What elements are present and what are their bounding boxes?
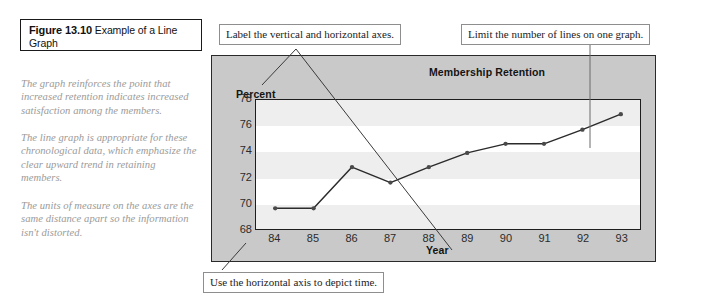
x-axis-tick-label: 91 bbox=[532, 232, 558, 244]
data-point bbox=[619, 112, 623, 116]
data-point bbox=[273, 206, 277, 210]
x-axis-tick-label: 90 bbox=[493, 232, 519, 244]
figure-number: Figure 13.10 bbox=[29, 24, 92, 36]
figure-note: The line graph is appropriate for these … bbox=[21, 131, 199, 184]
chart-panel: Membership Retention Percent Year 787674… bbox=[211, 55, 656, 262]
x-axis-tick-label: 93 bbox=[609, 232, 635, 244]
y-axis-tick-label: 78 bbox=[230, 92, 252, 104]
callout-label-axes: Label the vertical and horizontal axes. bbox=[219, 24, 401, 45]
x-axis-tick-label: 84 bbox=[261, 232, 287, 244]
y-axis-tick-label: 74 bbox=[230, 144, 252, 156]
x-axis-tick-label: 92 bbox=[570, 232, 596, 244]
x-axis-tick-label: 89 bbox=[454, 232, 480, 244]
y-axis-tick-label: 76 bbox=[230, 118, 252, 130]
y-axis-tick-label: 72 bbox=[230, 171, 252, 183]
figure-caption-box: Figure 13.10 Example of a Line Graph bbox=[20, 19, 202, 51]
x-axis-ticks: 84858687888990919293 bbox=[212, 232, 655, 248]
figure-note: The units of measure on the axes are the… bbox=[21, 199, 199, 239]
plot-area bbox=[255, 99, 641, 230]
data-point bbox=[350, 165, 354, 169]
data-point bbox=[465, 151, 469, 155]
data-point bbox=[427, 165, 431, 169]
figure-page: Figure 13.10 Example of a Line Graph The… bbox=[0, 0, 710, 298]
data-line-series bbox=[256, 100, 640, 229]
y-axis-tick-label: 70 bbox=[230, 197, 252, 209]
callout-horizontal-time: Use the horizontal axis to depict time. bbox=[203, 272, 384, 293]
data-point bbox=[388, 180, 392, 184]
data-line bbox=[275, 114, 621, 208]
data-point bbox=[311, 206, 315, 210]
x-axis-tick-label: 87 bbox=[377, 232, 403, 244]
x-axis-tick-label: 88 bbox=[416, 232, 442, 244]
data-point bbox=[503, 142, 507, 146]
figure-caption-text: Figure 13.10 Example of a Line Graph bbox=[29, 24, 194, 49]
callout-limit-lines: Limit the number of lines on one graph. bbox=[461, 24, 650, 45]
y-axis-ticks: 787674727068 bbox=[226, 56, 252, 261]
figure-note: The graph reinforces the point that incr… bbox=[21, 77, 199, 117]
x-axis-tick-label: 85 bbox=[300, 232, 326, 244]
data-point bbox=[542, 142, 546, 146]
data-point bbox=[580, 128, 584, 132]
chart-title: Membership Retention bbox=[372, 66, 602, 78]
x-axis-tick-label: 86 bbox=[339, 232, 365, 244]
